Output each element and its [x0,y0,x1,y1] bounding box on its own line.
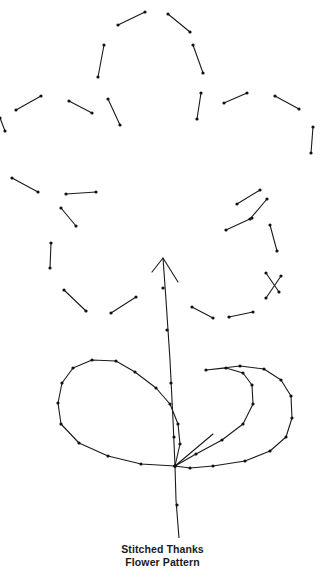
bottom-left-arc-2-dot-start [109,311,112,314]
top-petal-left-2-dot-end [201,71,204,74]
right-leaf-outline-vertex-11 [279,378,282,381]
mid-left-vertical-dot-end [48,266,51,269]
bottom-right-arc-3-dot-end [279,274,282,277]
top-petal-left-1-dot-end [143,10,146,13]
right-leaf-outline-vertex-3 [241,422,244,425]
mid-left-arc-1-dot-start [10,176,13,179]
upper-right-arc-3-dot-start [273,94,276,97]
bottom-right-arc-1-dot-end [211,316,214,319]
mid-left-arc-2-dot-end [94,190,97,193]
top-petal-left-1-dot-start [116,23,119,26]
top-petal-right-2-dot-start [102,43,105,46]
mid-left-vertical-dot-start [49,241,52,244]
left-leaf-outline-vertex-14 [178,442,181,445]
right-leaf-outline-vertex-15 [268,449,271,452]
right-leaf-outline-vertex-16 [243,459,246,462]
top-petal-right-1-dot-start [166,12,169,15]
bottom-left-arc-2-dot-end [134,295,137,298]
right-vertical-dot-end [309,151,312,154]
left-leaf-outline-vertex-11 [154,386,157,389]
right-leaf-outline-vertex-6 [241,371,244,374]
right-leaf-outline-vertex-10 [262,367,265,370]
stem-dot-2 [169,381,172,384]
right-leaf-outline-vertex-2 [220,438,223,441]
lower-right-seg-2-dot-start [264,271,267,274]
upper-right-arc-2-dot-end [245,91,248,94]
flower-diagram-svg [0,0,325,572]
stem-dot-4 [175,503,178,506]
mid-left-arc-1-dot-end [36,190,39,193]
left-leaf-outline-vertex-8 [90,358,93,361]
upper-left-arc-2-dot-start [67,99,70,102]
stem-dot-1 [165,328,168,331]
flower-pattern-figure [0,0,325,572]
upper-left-arc-3-dot-start [106,97,109,100]
left-leaf-outline-vertex-6 [60,381,63,384]
bottom-right-arc-2-dot-start [227,315,230,318]
stem-dot-3 [172,435,175,438]
caption-line-2: Flower Pattern [0,556,325,569]
canvas-background [0,0,325,572]
upper-right-arc-1-dot-end [195,117,198,120]
right-leaf-outline-vertex-5 [250,383,253,386]
right-leaf-outline-vertex-13 [290,416,293,419]
right-leaf-outline-vertex-1 [194,452,197,455]
upper-right-arc-2-dot-start [222,101,225,104]
lower-right-seg-2-dot-end [277,290,280,293]
mid-right-arc-1-dot-end [258,188,261,191]
left-leaf-outline-vertex-12 [168,402,171,405]
bottom-right-arc-2-dot-end [251,310,254,313]
left-leaf-outline-vertex-1 [139,462,142,465]
left-leaf-outline-vertex-10 [133,370,136,373]
upper-left-arc-1-dot-start [14,108,17,111]
right-leaf-outline-vertex-12 [289,394,292,397]
lower-right-seg-1-dot-start [268,223,271,226]
mid-right-arc-3-dot-start [224,228,227,231]
mid-right-arc-3-dot-end [250,216,253,219]
right-leaf-outline-vertex-14 [284,435,287,438]
left-leaf-outline-vertex-7 [71,366,74,369]
bottom-left-arc-1-dot-start [62,288,65,291]
right-leaf-outline-vertex-17 [211,464,214,467]
top-petal-right-2-dot-end [96,75,99,78]
upper-left-edge-dot-end [3,129,6,132]
right-leaf-outline-vertex-18 [188,466,191,469]
upper-left-arc-2-dot-end [90,111,93,114]
left-leaf-outline-vertex-9 [114,359,117,362]
right-leaf-outline-vertex-7 [224,366,227,369]
mid-right-arc-2-dot-end [265,197,268,200]
right-leaf-outline-vertex-4 [251,402,254,405]
right-leaf-outline-vertex-8 [204,368,207,371]
left-leaf-outline-vertex-5 [56,401,59,404]
upper-right-arc-1-dot-start [199,91,202,94]
left-leaf-outline-vertex-3 [77,441,80,444]
right-leaf-outline-vertex-9 [238,364,241,367]
upper-left-arc-1-dot-end [39,94,42,97]
left-leaf-outline-vertex-4 [59,422,62,425]
left-leaf-outline-vertex-13 [176,422,179,425]
bottom-right-arc-1-dot-start [190,305,193,308]
mid-right-arc-1-dot-start [235,202,238,205]
right-vertical-dot-start [311,125,314,128]
stem-dot-0 [161,286,164,289]
left-leaf-outline-vertex-2 [106,454,109,457]
upper-left-arc-3-dot-end [118,123,121,126]
mid-left-arc-3-dot-start [59,206,62,209]
upper-right-arc-3-dot-end [297,107,300,110]
bottom-left-arc-1-dot-end [84,309,87,312]
top-petal-right-1-dot-end [188,30,191,33]
top-petal-left-2-dot-start [191,43,194,46]
caption-line-1: Stitched Thanks [0,543,325,556]
mid-left-arc-2-dot-start [64,192,67,195]
lower-right-seg-1-dot-end [275,249,278,252]
mid-left-arc-3-dot-end [74,224,77,227]
bottom-right-arc-3-dot-start [264,296,267,299]
